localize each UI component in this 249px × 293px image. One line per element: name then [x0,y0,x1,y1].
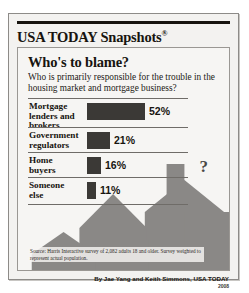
bar-value: 52% [149,103,170,120]
registered-trademark-icon: ® [162,29,168,38]
brand-title-text: USA TODAY Snapshots [17,29,162,45]
bar-label: Government regulators [29,131,85,150]
bar-label-line: regulators [29,140,69,150]
bar-label-line: Government [29,130,79,140]
bar-label-line: else [29,190,43,200]
bar-row: Mortgage lenders and brokers 52% [28,98,188,127]
question-mark-icon: ? [200,158,209,175]
byline: By Jae Yang and Keith Simmons, USA TODAY… [94,275,229,290]
source-note: Source: Harris Interactive survey of 2,0… [28,247,204,262]
bar-label-line: Mortgage [29,101,67,111]
bar-label-line: Someone [29,180,64,190]
chart-panel: ? Who's to blame? Who is primarily respo… [17,47,230,271]
bar-row: Home buyers 16% [28,152,188,177]
bar-label-line: Home [29,155,52,165]
bar-label-line: buyers [29,165,56,175]
bar-chart: Mortgage lenders and brokers 52% Governm… [28,98,188,205]
brand-title: USA TODAY Snapshots® [17,24,232,43]
bar-label: Someone else [29,181,85,200]
bar-track [87,182,96,199]
bar-fill [87,103,145,120]
bar-fill [87,132,110,149]
bar-label: Home buyers [29,156,85,175]
bar-fill [87,157,101,174]
bar-value: 16% [105,157,126,174]
bar-label-line: lenders and [29,111,75,121]
bar-row: Government regulators 21% [28,127,188,152]
bar-track [87,132,110,149]
bar-value: 21% [114,132,135,149]
bar-value: 11% [100,182,120,199]
byline-year: 2008 [94,283,229,290]
subtitle: Who is primarily responsible for the tro… [28,72,218,94]
bar-track [87,157,101,174]
byline-credit: By Jae Yang and Keith Simmons, USA TODAY [94,275,229,283]
usa-today-snapshot-figure: USA TODAY Snapshots® ? Who's to blame? W… [8,13,239,280]
page-title: Who's to blame? [28,54,129,71]
bar-track [87,103,145,120]
bar-fill [87,182,96,199]
bar-row: Someone else 11% [28,177,188,205]
